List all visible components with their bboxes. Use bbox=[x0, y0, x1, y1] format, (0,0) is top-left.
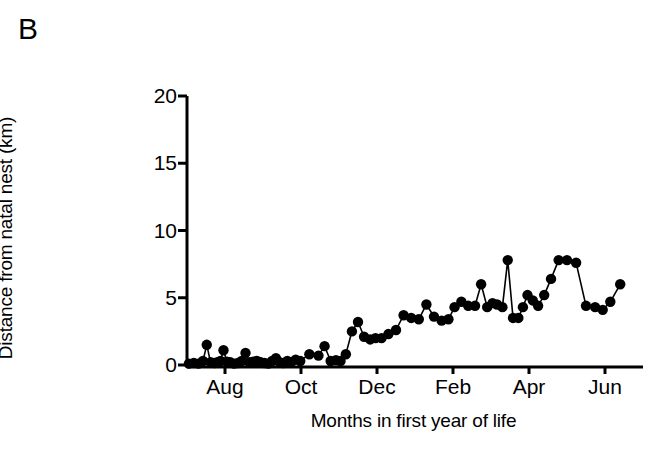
data-point bbox=[391, 325, 401, 335]
data-point bbox=[353, 317, 363, 327]
data-point bbox=[546, 274, 556, 284]
data-point bbox=[304, 349, 314, 359]
data-point bbox=[319, 341, 329, 351]
data-point bbox=[313, 350, 323, 360]
data-point bbox=[598, 305, 608, 315]
figure-panel: B Distance from natal nest (km) Months i… bbox=[0, 0, 658, 457]
data-point bbox=[443, 314, 453, 324]
data-point bbox=[295, 356, 305, 366]
data-point bbox=[615, 279, 625, 289]
data-point bbox=[605, 297, 615, 307]
data-point bbox=[571, 258, 581, 268]
data-point bbox=[581, 301, 591, 311]
data-point bbox=[341, 349, 351, 359]
data-point bbox=[533, 301, 543, 311]
axes bbox=[178, 96, 643, 374]
data-point bbox=[218, 345, 228, 355]
data-series bbox=[184, 255, 626, 369]
data-point bbox=[414, 314, 424, 324]
data-point bbox=[513, 313, 523, 323]
data-point bbox=[240, 348, 250, 358]
data-point bbox=[470, 301, 480, 311]
series-markers bbox=[184, 255, 626, 369]
data-point bbox=[503, 255, 513, 265]
data-point bbox=[497, 302, 507, 312]
data-point bbox=[202, 340, 212, 350]
data-point bbox=[421, 299, 431, 309]
data-point bbox=[476, 279, 486, 289]
data-point bbox=[347, 326, 357, 336]
data-point bbox=[518, 302, 528, 312]
plot-area bbox=[0, 0, 658, 457]
data-point bbox=[562, 255, 572, 265]
data-point bbox=[539, 290, 549, 300]
